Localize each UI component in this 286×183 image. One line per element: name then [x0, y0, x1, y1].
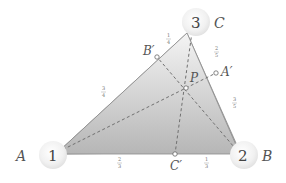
weight-a: 1	[48, 147, 58, 165]
label-c-prime: C′	[170, 159, 182, 173]
ratio-ab-prime: 3 4	[101, 85, 106, 98]
label-a: A	[14, 148, 26, 164]
svg-text:4: 4	[167, 39, 170, 45]
svg-text:1: 1	[167, 32, 170, 38]
svg-text:3: 3	[118, 163, 121, 169]
svg-text:2: 2	[118, 156, 121, 162]
svg-text:3: 3	[102, 85, 105, 91]
point-a-prime	[214, 71, 218, 75]
label-c: C	[214, 15, 225, 31]
point-b-prime	[155, 55, 159, 59]
svg-text:3: 3	[205, 163, 208, 169]
ratio-a-c-prime: 2 3	[117, 156, 122, 169]
label-b-prime: B′	[142, 44, 155, 58]
weight-b: 2	[238, 147, 248, 165]
svg-text:1: 1	[205, 156, 208, 162]
svg-text:3: 3	[233, 96, 236, 102]
point-c-prime	[173, 152, 177, 156]
ratio-c-prime-b: 1 3	[204, 156, 209, 169]
ratio-c-a-prime: 2 5	[214, 45, 219, 58]
triangle-diagram: 1 2 3 A B C B′ A′ C′ P 3 4 1 4 2 5 3 5 2…	[0, 0, 286, 183]
point-p	[184, 86, 188, 90]
ratio-b-prime-c: 1 4	[166, 32, 171, 45]
label-p: P	[189, 71, 199, 85]
weight-c: 3	[191, 14, 201, 32]
ratio-a-prime-b: 3 5	[232, 96, 237, 109]
label-a-prime: A′	[220, 65, 233, 79]
svg-text:5: 5	[215, 52, 218, 58]
label-b: B	[261, 148, 272, 164]
svg-text:2: 2	[215, 45, 218, 51]
svg-text:5: 5	[233, 103, 236, 109]
svg-text:4: 4	[102, 92, 105, 98]
